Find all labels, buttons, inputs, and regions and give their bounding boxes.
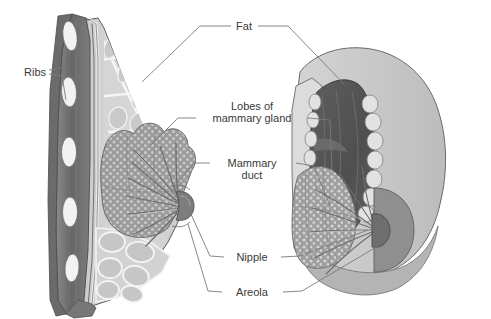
rib-4 xyxy=(63,197,78,227)
right-anterior-view xyxy=(292,48,446,295)
label-duct-line1: Mammary xyxy=(228,157,277,169)
label-lobes-line2: mammary gland xyxy=(213,112,292,124)
label-areola: Areola xyxy=(236,286,269,298)
leader-nipple-left xyxy=(190,212,224,257)
anatomy-diagram: Ribs Fat Lobes of mammary gland Mammary … xyxy=(0,0,491,319)
breast-anatomy-figure: Ribs Fat Lobes of mammary gland Mammary … xyxy=(0,0,491,319)
label-nipple: Nipple xyxy=(236,251,267,263)
leader-areola-left xyxy=(188,224,222,292)
label-duct-line2: duct xyxy=(242,169,263,181)
label-ribs: Ribs xyxy=(24,66,47,78)
label-fat: Fat xyxy=(236,20,252,32)
rib-3 xyxy=(62,137,77,167)
nipple-left xyxy=(176,192,194,221)
label-lobes-line1: Lobes of xyxy=(231,100,274,112)
left-cross-section-view xyxy=(48,14,195,318)
leader-fat-left xyxy=(142,26,231,82)
